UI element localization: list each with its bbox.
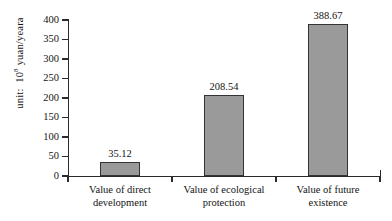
y-axis-tick-label: 0: [19, 171, 59, 181]
y-axis-tick-label: 300: [19, 54, 59, 64]
bar: [100, 162, 140, 176]
y-axis-tick-label: 50: [19, 151, 59, 161]
bar-chart: unit: 108 yuan/yeara 4003503002502001501…: [0, 0, 392, 221]
bar-value-label: 208.54: [194, 81, 254, 92]
x-axis-category-label: Value of directdevelopment: [61, 184, 179, 209]
y-axis-tick: [62, 58, 68, 59]
x-axis-category-label-line: existence: [269, 197, 387, 210]
y-axis-tick-label: 150: [19, 112, 59, 122]
bar: [204, 95, 244, 176]
x-axis-tick: [67, 176, 68, 182]
y-axis-line: [68, 19, 69, 177]
x-axis-category-label: Value of futureexistence: [269, 184, 387, 209]
y-axis-tick: [62, 156, 68, 157]
x-axis-category-label-line: Value of future: [269, 184, 387, 197]
x-axis-tick: [171, 176, 172, 182]
y-axis-tick: [62, 117, 68, 118]
x-axis-line: [68, 176, 381, 177]
y-axis-tick-label: 350: [19, 34, 59, 44]
y-axis-tick: [62, 19, 68, 20]
y-axis-tick-label: 400: [19, 15, 59, 25]
y-axis-tick: [62, 136, 68, 137]
x-axis-tick: [379, 176, 380, 182]
y-axis-tick-label: 100: [19, 132, 59, 142]
x-axis-category-label-line: Value of direct: [61, 184, 179, 197]
bar-value-label: 35.12: [90, 148, 150, 159]
x-axis-tick: [275, 176, 276, 182]
bar-value-label: 388.67: [298, 10, 358, 21]
y-axis-tick: [62, 97, 68, 98]
y-axis-title-exponent: 8: [12, 68, 20, 72]
y-axis-tick-label: 250: [19, 73, 59, 83]
bar: [308, 24, 348, 176]
x-axis-category-label-line: protection: [165, 197, 283, 210]
y-axis-tick: [62, 39, 68, 40]
x-axis-category-label: Value of ecologicalprotection: [165, 184, 283, 209]
y-axis-tick: [62, 78, 68, 79]
x-axis-category-label-line: Value of ecological: [165, 184, 283, 197]
y-axis-tick-label: 200: [19, 93, 59, 103]
x-axis-category-label-line: development: [61, 197, 179, 210]
